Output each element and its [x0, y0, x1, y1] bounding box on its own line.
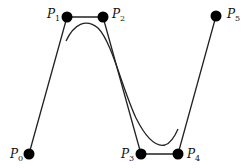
control-point-p5	[211, 11, 222, 22]
control-point-p4	[173, 149, 184, 160]
control-point-label-p5: P5	[226, 7, 240, 23]
bezier-diagram: P0P1P2P3P4P5	[0, 0, 250, 168]
control-point-label-p2: P2	[111, 7, 125, 23]
control-point-p3	[136, 149, 147, 160]
control-point-label-p0: P0	[9, 147, 23, 163]
control-point-p2	[98, 12, 109, 23]
control-point-p0	[24, 149, 35, 160]
control-point-label-p1: P1	[46, 7, 60, 23]
control-point-p1	[62, 12, 73, 23]
control-polygon	[29, 16, 216, 154]
control-point-label-p4: P4	[186, 147, 200, 163]
control-point-label-p3: P3	[120, 147, 134, 163]
